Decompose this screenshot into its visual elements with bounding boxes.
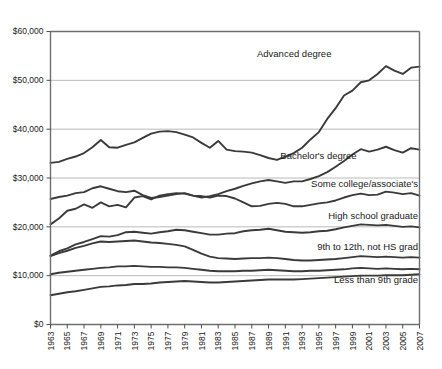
x-axis-tick-label: 1969 (96, 331, 106, 350)
series-label: Advanced degree (257, 48, 331, 59)
x-axis-tick-label: 1991 (281, 331, 291, 350)
chart-container: $60,000$50,000$40,000$30,000$20,000$10,0… (0, 0, 442, 369)
y-axis-tick-label: $30,000 (13, 173, 44, 183)
y-axis-tick-label: $0 (34, 319, 44, 329)
y-axis-tick-label: $40,000 (13, 124, 44, 134)
x-axis-tick-label: 1993 (297, 331, 307, 350)
x-axis-tick-label: 2003 (381, 331, 391, 350)
series-label: Less than 9th grade (334, 274, 418, 285)
income-by-education-line-chart: $60,000$50,000$40,000$30,000$20,000$10,0… (0, 0, 442, 369)
x-axis-tick-label: 1997 (331, 331, 341, 350)
x-axis-tick-label: 2001 (364, 331, 374, 350)
series-label: High school graduate (328, 210, 418, 221)
y-axis-tick-label: $50,000 (13, 75, 44, 85)
x-axis-tick-label: 1985 (230, 331, 240, 350)
x-axis-tick-label: 1995 (314, 331, 324, 350)
x-axis-tick-label: 1989 (264, 331, 274, 350)
x-axis-tick-label: 1965 (62, 331, 72, 350)
x-axis-tick-label: 2005 (398, 331, 408, 350)
x-axis-tick-label: 2007 (415, 331, 425, 350)
x-axis-tick-label: 1999 (348, 331, 358, 350)
y-axis-tick-label: $20,000 (13, 222, 44, 232)
x-axis-tick-label: 1979 (180, 331, 190, 350)
x-axis-tick-label: 1975 (146, 331, 156, 350)
y-axis-tick-label: $60,000 (13, 26, 44, 36)
x-axis-tick-label: 1971 (113, 331, 123, 350)
y-axis-tick-label: $10,000 (13, 270, 44, 280)
x-axis-tick-label: 1973 (130, 331, 140, 350)
series-label: Bachelor's degree (280, 150, 356, 161)
x-axis-tick-label: 1987 (247, 331, 257, 350)
series-label: Some college/associate's (311, 178, 418, 189)
x-axis-tick-label: 1963 (46, 331, 56, 350)
series-label: 9th to 12th, not HS grad (317, 241, 418, 252)
x-axis-tick-label: 1977 (163, 331, 173, 350)
x-axis-tick-label: 1967 (79, 331, 89, 350)
x-axis-tick-label: 1981 (197, 331, 207, 350)
x-axis-tick-label: 1983 (213, 331, 223, 350)
